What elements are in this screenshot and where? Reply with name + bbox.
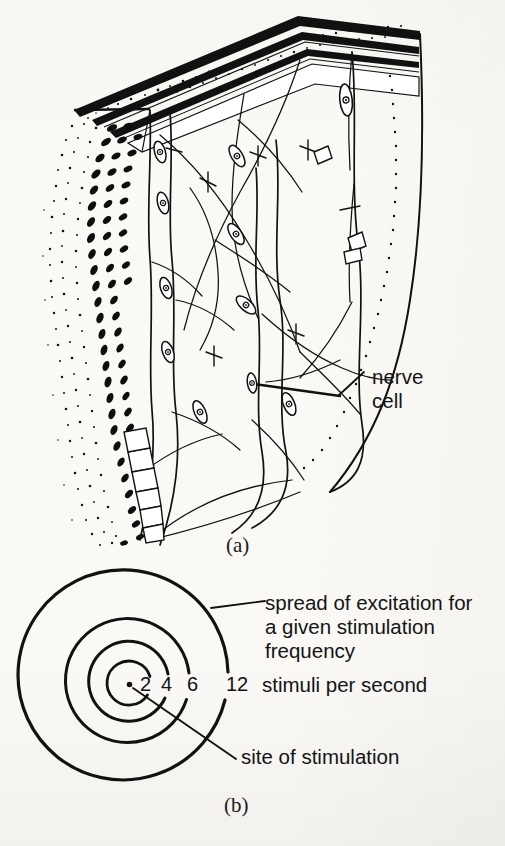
site-of-stimulation-label: site of stimulation (241, 745, 399, 769)
ring-value-6: 6 (187, 673, 198, 697)
stimulation-site-dot (127, 682, 133, 688)
spread-caption-line3: frequency (265, 639, 355, 663)
panel-b-drawing (0, 0, 505, 846)
ring-value-2: 2 (140, 673, 151, 697)
spread-leader-line (211, 601, 265, 608)
excitation-arc-4 (89, 641, 168, 721)
figure-root: nerve cell (a) 2 4 6 12 spread of excita… (0, 0, 505, 846)
stimuli-per-second-label: stimuli per second (262, 673, 427, 697)
ring-value-12: 12 (226, 673, 248, 697)
ring-value-4: 4 (161, 673, 172, 697)
panel-b-letter: (b) (224, 793, 249, 818)
spread-caption-line1: spread of excitation for (265, 591, 472, 615)
site-leader-line (133, 688, 236, 759)
spread-caption-line2: a given stimulation (265, 615, 435, 639)
